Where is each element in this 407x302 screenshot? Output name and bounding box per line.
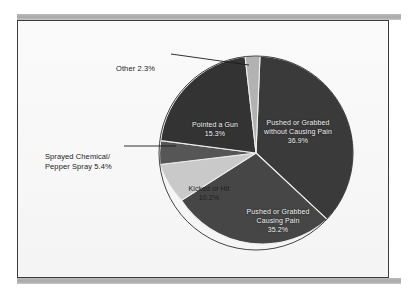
pie-label-sprayed-chemical-line1: Sprayed Chemical/	[45, 152, 110, 161]
pie-label-sprayed-chemical: Sprayed Chemical/ Pepper Spray 5.4%	[45, 152, 112, 172]
figure-card: Other 2.3% Sprayed Chemical/ Pepper Spra…	[17, 20, 389, 278]
pie-slice-pointed-a-gun	[161, 57, 256, 153]
page-canvas: Other 2.3% Sprayed Chemical/ Pepper Spra…	[0, 0, 407, 302]
pie-chart: Other 2.3% Sprayed Chemical/ Pepper Spra…	[18, 21, 388, 277]
pie-chart-svg	[18, 21, 390, 279]
pie-label-sprayed-chemical-line2: Pepper Spray 5.4%	[45, 162, 112, 171]
pie-label-other-text: Other 2.3%	[116, 64, 155, 73]
pie-label-other: Other 2.3%	[116, 64, 155, 74]
